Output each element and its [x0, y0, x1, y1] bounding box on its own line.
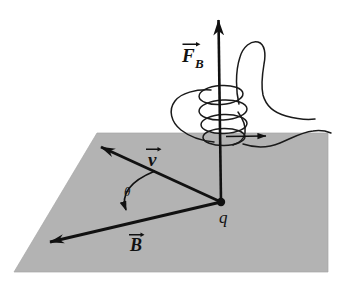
- point-charge-dot: [217, 198, 225, 206]
- velocity-symbol: v: [148, 149, 157, 170]
- force-subscript: B: [194, 56, 204, 71]
- angle-theta-label: θ: [124, 184, 131, 199]
- force-symbol: F: [181, 45, 195, 66]
- charge-label: q: [219, 208, 228, 227]
- physics-vector-diagram: F B v B q θ: [0, 0, 343, 287]
- magnetic-field-symbol: B: [129, 235, 142, 255]
- figure-root: F B v B q θ: [0, 0, 343, 287]
- finger-curl-arrow: [226, 136, 266, 137]
